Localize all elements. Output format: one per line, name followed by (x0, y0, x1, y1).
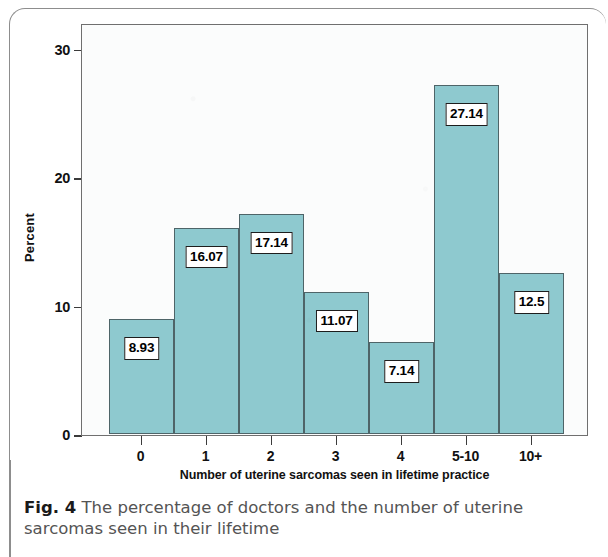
x-axis-tick-label: 4 (366, 448, 436, 464)
x-axis-tick-label: 2 (236, 448, 306, 464)
bar-value-label: 11.07 (315, 310, 357, 333)
x-axis-tick (401, 436, 403, 445)
x-axis-tick-label: 3 (301, 448, 371, 464)
bar (369, 342, 434, 434)
bar-value-label: 8.93 (124, 337, 159, 360)
x-axis-tick-label: 10+ (496, 448, 566, 464)
y-axis-title: Percent (22, 193, 37, 283)
bars-group: 8.9316.0717.1411.077.1427.1412.5 (82, 25, 587, 435)
figure-number: Fig. 4 (24, 498, 76, 517)
x-axis-tick (141, 436, 143, 445)
y-axis-tick-label: 20 (30, 170, 70, 186)
bar-value-label: 7.14 (384, 360, 419, 383)
x-axis-tick (531, 436, 533, 445)
bar-value-label: 12.5 (514, 291, 549, 314)
bar-chart: Percent 0102030 8.9316.0717.1411.077.142… (0, 0, 608, 492)
x-axis-title: Number of uterine sarcomas seen in lifet… (81, 468, 588, 482)
y-axis-tick-label: 30 (30, 42, 70, 58)
bar (434, 85, 499, 434)
x-axis-tick (466, 436, 468, 445)
plot-area: 8.9316.0717.1411.077.1427.1412.5 (81, 24, 588, 436)
x-axis-tick (336, 436, 338, 445)
figure-caption-text: The percentage of doctors and the number… (24, 498, 523, 538)
y-axis-tick-label: 0 (30, 427, 70, 443)
x-axis-tick-label: 5-10 (431, 448, 501, 464)
figure-caption: Fig. 4 The percentage of doctors and the… (24, 497, 600, 539)
x-axis-tick-label: 0 (106, 448, 176, 464)
x-axis-tick (271, 436, 273, 445)
y-axis-tick-label: 10 (30, 299, 70, 315)
bar-value-label: 27.14 (445, 103, 488, 126)
bar-value-label: 17.14 (250, 232, 293, 255)
bar-value-label: 16.07 (185, 246, 228, 269)
x-axis-tick-label: 1 (171, 448, 241, 464)
x-axis-tick (206, 436, 208, 445)
